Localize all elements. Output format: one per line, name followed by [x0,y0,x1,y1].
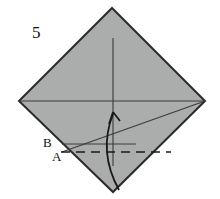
paper-sheet [19,8,205,192]
point-a-label: A [52,150,61,163]
step-number-label: 5 [32,24,41,41]
point-b-label: B [43,136,52,149]
origami-figure: 5 B A [0,0,220,199]
